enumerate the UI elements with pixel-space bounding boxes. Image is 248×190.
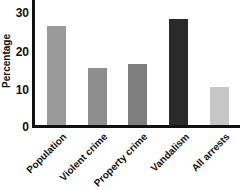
x-tick-label: Vandalism — [148, 131, 191, 174]
y-tick-0: 0 — [9, 121, 29, 133]
bar-all-arrests — [210, 87, 229, 125]
bar-population — [47, 26, 66, 125]
y-tick-20: 20 — [9, 46, 29, 58]
x-tick-label: Population — [24, 131, 68, 175]
bar-property-crime — [128, 64, 147, 125]
y-tick-10: 10 — [9, 84, 29, 96]
y-axis-label: Percentage — [1, 34, 12, 88]
x-axis-line — [32, 125, 240, 128]
y-tick-30: 30 — [9, 7, 29, 19]
x-tick-label: All arrests — [189, 131, 231, 173]
bar-vandalism — [169, 19, 188, 125]
y-axis-line — [32, 0, 35, 128]
bar-chart: Percentage 30 20 10 0 PopulationViolent … — [0, 0, 248, 190]
bar-violent-crime — [88, 68, 107, 125]
